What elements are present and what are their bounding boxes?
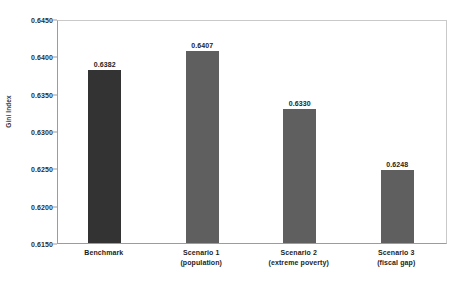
y-tick-label: 0.6450 [8, 17, 57, 24]
plot-area: 0.63820.64070.63300.6248 [57, 20, 447, 244]
clipped-caption-fragment [0, 0, 460, 2]
y-tick-mark [53, 206, 57, 207]
x-axis-label-line: Scenario 1 [153, 248, 251, 258]
bar-rect [283, 109, 316, 243]
x-axis-label-line: Scenario 3 [348, 248, 446, 258]
y-tick-label: 0.6400 [8, 54, 57, 61]
y-tick-label: 0.6200 [8, 203, 57, 210]
x-axis-label-line: (fiscal gap) [348, 258, 446, 268]
y-tick-mark [53, 132, 57, 133]
bar-rect [186, 51, 219, 243]
y-tick-mark [53, 94, 57, 95]
bar-rect [381, 170, 414, 243]
bar-rect [88, 70, 121, 243]
bar-value-label: 0.6382 [94, 61, 116, 68]
bar-1: 0.6382 [88, 70, 121, 243]
y-tick-label: 0.6150 [8, 241, 57, 248]
y-tick-label: 0.6300 [8, 129, 57, 136]
x-axis-label-line: (extreme poverty) [250, 258, 348, 268]
x-axis-label-4: Scenario 3(fiscal gap) [348, 248, 446, 268]
y-tick-label: 0.6350 [8, 91, 57, 98]
y-tick-label: 0.6250 [8, 166, 57, 173]
x-axis-label-line: (population) [153, 258, 251, 268]
bar-3: 0.6330 [283, 109, 316, 243]
bar-value-label: 0.6330 [289, 100, 311, 107]
bar-2: 0.6407 [186, 51, 219, 243]
bar-value-label: 0.6248 [386, 161, 408, 168]
y-tick-mark [53, 244, 57, 245]
x-axis-label-line: Benchmark [55, 248, 153, 258]
bar-4: 0.6248 [381, 170, 414, 243]
x-axis-label-1: Benchmark [55, 248, 153, 258]
y-tick-mark [53, 169, 57, 170]
gini-index-bar-chart: Gini Index 0.63820.64070.63300.6248 Benc… [0, 0, 460, 282]
x-axis-label-2: Scenario 1(population) [153, 248, 251, 268]
y-tick-mark [53, 57, 57, 58]
y-tick-mark [53, 20, 57, 21]
bars-layer: 0.63820.64070.63300.6248 [58, 21, 446, 243]
x-axis-label-line: Scenario 2 [250, 248, 348, 258]
x-axis-label-3: Scenario 2(extreme poverty) [250, 248, 348, 268]
bar-value-label: 0.6407 [191, 42, 213, 49]
